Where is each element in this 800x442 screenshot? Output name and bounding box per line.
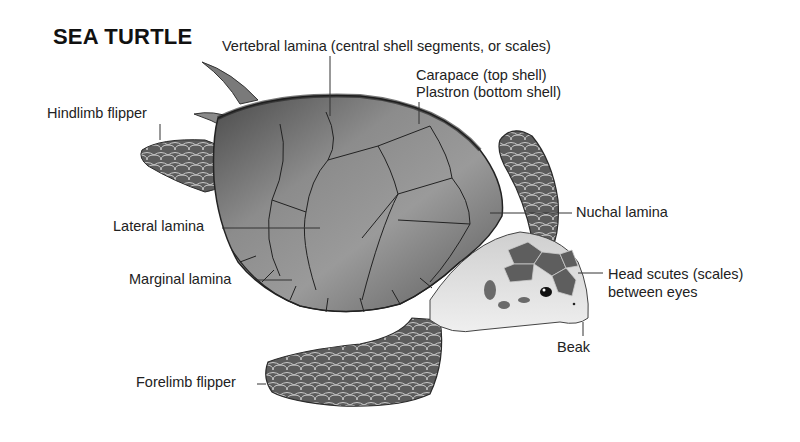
label-head-scutes: Head scutes (scales) <box>608 266 743 283</box>
label-marginal-lamina: Marginal lamina <box>129 271 231 288</box>
label-carapace: Carapace (top shell) <box>416 67 547 84</box>
label-beak: Beak <box>557 339 590 356</box>
label-lateral-lamina: Lateral lamina <box>113 218 204 235</box>
forelimb-flipper-shape <box>266 318 442 406</box>
label-head-scutes-line2: between eyes <box>608 284 697 301</box>
eye <box>540 287 552 297</box>
label-nuchal-lamina: Nuchal lamina <box>576 204 668 221</box>
label-plastron: Plastron (bottom shell) <box>416 84 561 101</box>
label-hindlimb-flipper: Hindlimb flipper <box>47 105 147 122</box>
label-vertebral-lamina: Vertebral lamina (central shell segments… <box>222 38 551 55</box>
label-forelimb-flipper: Forelimb flipper <box>136 374 236 391</box>
forelimb-right-shape <box>499 131 558 248</box>
